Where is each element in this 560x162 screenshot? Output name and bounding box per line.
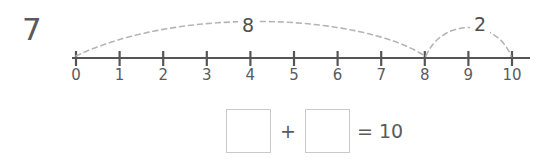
jump-label-2: 2 bbox=[470, 14, 490, 35]
tick-label-5: 5 bbox=[289, 67, 299, 84]
jump-label-8: 8 bbox=[238, 15, 258, 36]
tick-label-7: 7 bbox=[376, 67, 386, 84]
first-addend-box[interactable] bbox=[226, 109, 271, 153]
tick-label-9: 9 bbox=[464, 67, 474, 84]
worksheet-canvas: 7 0 1 2 3 4 5 6 7 8 9 10 8 2 bbox=[0, 0, 560, 162]
tick-label-6: 6 bbox=[333, 67, 343, 84]
second-addend-box[interactable] bbox=[305, 109, 350, 153]
tick-label-2: 2 bbox=[158, 67, 168, 84]
tick-label-0: 0 bbox=[71, 67, 81, 84]
tick-label-4: 4 bbox=[246, 67, 256, 84]
equals-sum: = 10 bbox=[350, 121, 403, 141]
tick-label-10: 10 bbox=[502, 67, 521, 84]
equation-row: + = 10 bbox=[226, 106, 403, 156]
tick-label-8: 8 bbox=[420, 67, 430, 84]
tick-label-3: 3 bbox=[202, 67, 212, 84]
tick-label-1: 1 bbox=[115, 67, 125, 84]
plus-operator: + bbox=[271, 121, 305, 141]
